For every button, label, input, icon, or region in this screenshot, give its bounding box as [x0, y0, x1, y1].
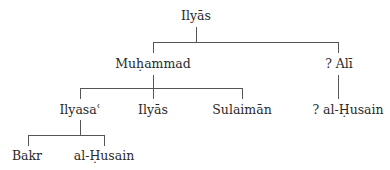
connector-level1-bar — [153, 42, 339, 43]
connector-to-ilyas2 — [153, 88, 154, 99]
connector-to-bakr — [28, 135, 29, 146]
connector-to-ali — [338, 42, 339, 53]
connector-to-ilyasa — [80, 88, 81, 99]
connector-root-down — [196, 27, 197, 42]
connector-level2-bar — [80, 88, 243, 89]
node-ali: ? Alī — [325, 57, 353, 71]
connector-muhammad-down — [153, 75, 154, 88]
connector-ilyasa-down — [80, 120, 81, 135]
connector-to-muhammad — [153, 42, 154, 53]
connector-to-husain — [104, 135, 105, 146]
node-muhammad: Muḥammad — [115, 57, 191, 71]
connector-ali-to-husain — [338, 75, 339, 99]
node-ilyas2: Ilyās — [138, 103, 168, 117]
node-husain-ali: ? al-Ḥusain — [312, 103, 383, 117]
node-ilyasa: Ilyasaʿ — [59, 103, 100, 117]
node-bakr: Bakr — [12, 149, 42, 163]
node-sulaiman: Sulaimān — [212, 103, 271, 117]
node-husain: al-Ḥusain — [74, 149, 135, 163]
connector-level3-bar — [28, 135, 105, 136]
connector-to-sulaiman — [242, 88, 243, 99]
node-root-ilyas: Ilyās — [181, 9, 211, 23]
